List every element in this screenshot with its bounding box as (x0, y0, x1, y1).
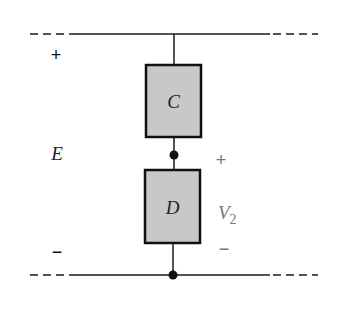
v2-plus-sign: + (216, 150, 227, 170)
v2-label-subscript: 2 (230, 212, 237, 227)
component-d-label: D (165, 197, 180, 218)
source-minus-sign: − (52, 242, 63, 262)
component-c-label: C (167, 91, 180, 112)
v2-minus-sign: − (219, 239, 230, 259)
node-dot-bottom (169, 271, 178, 280)
circuit-diagram: C D + E − + V2 − (0, 0, 344, 317)
source-label-e: E (50, 143, 63, 164)
v2-label: V2 (218, 202, 237, 227)
source-plus-sign: + (51, 45, 62, 65)
node-dot-middle (170, 151, 179, 160)
